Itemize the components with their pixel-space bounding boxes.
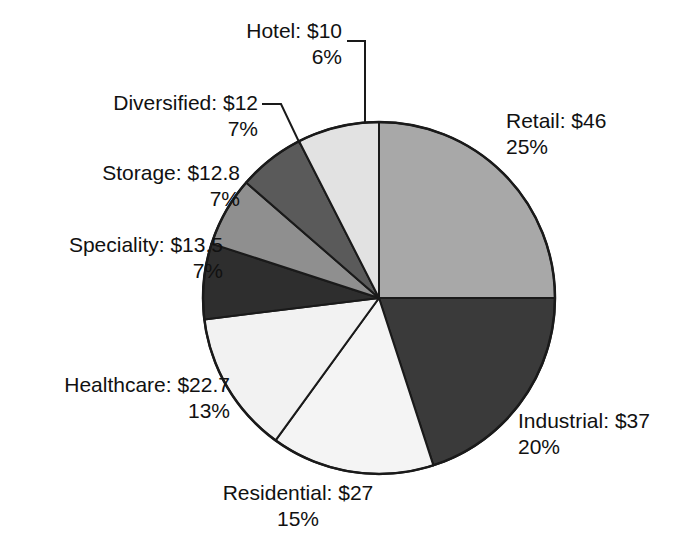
slice-label-hotel-value: Hotel: $10: [148, 18, 342, 44]
slice-label-diversified-value: Diversified: $12: [62, 90, 258, 116]
slice-label-hotel-percent: 6%: [148, 44, 342, 70]
slice-label-speciality-percent: 7%: [18, 258, 223, 284]
slice-label-speciality: Speciality: $13.5 7%: [18, 232, 223, 284]
slice-label-diversified-percent: 7%: [62, 116, 258, 142]
slice-label-healthcare-percent: 13%: [18, 398, 230, 424]
slice-label-retail-value: Retail: $46: [506, 108, 606, 134]
slice-label-storage: Storage: $12.8 7%: [40, 160, 240, 212]
slice-label-retail: Retail: $46 25%: [506, 108, 606, 160]
leader-line-hotel: [347, 41, 365, 123]
slice-label-hotel: Hotel: $10 6%: [148, 18, 342, 70]
slice-label-healthcare-value: Healthcare: $22.7: [18, 372, 230, 398]
slice-label-storage-percent: 7%: [40, 186, 240, 212]
slice-label-residential-percent: 15%: [198, 506, 398, 532]
slice-label-diversified: Diversified: $12 7%: [62, 90, 258, 142]
slice-label-industrial-percent: 20%: [518, 434, 650, 460]
slice-label-residential-value: Residential: $27: [198, 480, 398, 506]
slice-label-healthcare: Healthcare: $22.7 13%: [18, 372, 230, 424]
slice-label-industrial: Industrial: $37 20%: [518, 408, 650, 460]
slice-label-retail-percent: 25%: [506, 134, 606, 160]
slice-label-industrial-value: Industrial: $37: [518, 408, 650, 434]
leader-line-diversified: [262, 104, 300, 144]
pie-slice-group: [203, 122, 555, 474]
pie-chart-page: Retail: $46 25% Industrial: $37 20% Resi…: [0, 0, 697, 557]
slice-label-residential: Residential: $27 15%: [198, 480, 398, 532]
slice-label-storage-value: Storage: $12.8: [40, 160, 240, 186]
slice-label-speciality-value: Speciality: $13.5: [18, 232, 223, 258]
